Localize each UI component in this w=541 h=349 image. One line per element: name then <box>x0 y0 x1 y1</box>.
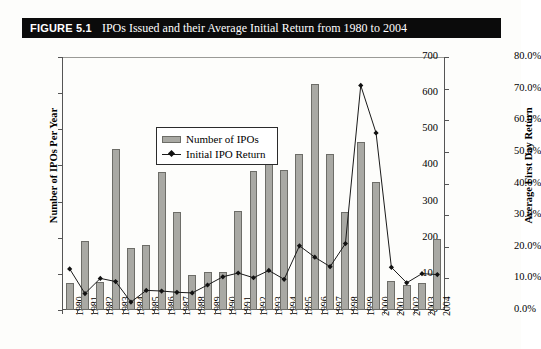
return-line-path <box>70 85 438 302</box>
x-tick-mark <box>200 310 201 314</box>
return-marker-1989: 1989: 7.9% <box>205 282 210 287</box>
right-tick-mark <box>445 184 449 185</box>
line-series-group: 1980: 13%1981: 5.2%1982: 10%1983: 9%1984… <box>62 57 445 310</box>
right-tick-label: 70.0% <box>514 83 541 93</box>
x-tick-mark <box>215 310 216 314</box>
x-tick-mark <box>384 310 385 314</box>
x-tick-mark <box>276 310 277 314</box>
x-tick-mark <box>399 310 400 314</box>
right-tick-label: 0.0% <box>514 304 536 314</box>
x-tick-mark <box>307 310 308 314</box>
x-tick-mark <box>169 310 170 314</box>
return-marker-1992: 1992: 10.2% <box>251 275 256 280</box>
x-tick-mark <box>430 310 431 314</box>
chart-legend: Number of IPOs Initial IPO Return <box>156 127 278 165</box>
return-marker-1990: 1990: 10.5% <box>220 274 225 279</box>
x-tick-mark <box>139 310 140 314</box>
figure-title-text: IPOs Issued and their Average Initial Re… <box>102 21 407 36</box>
return-marker-2003: 2003: 11.5% <box>419 271 424 276</box>
x-tick-mark <box>77 310 78 314</box>
x-tick-mark <box>322 310 323 314</box>
right-tick-mark <box>445 152 449 153</box>
right-tick-mark <box>445 278 449 279</box>
right-tick-label: 60.0% <box>514 114 541 124</box>
return-marker-2000: 2000: 56% <box>373 130 378 135</box>
x-tick-mark <box>154 310 155 314</box>
x-tick-mark <box>368 310 369 314</box>
x-tick-mark <box>353 310 354 314</box>
right-axis-title: Average First Day Return <box>523 107 534 223</box>
return-marker-1987: 1987: 5.6% <box>174 290 179 295</box>
right-tick-label: 50.0% <box>514 146 541 156</box>
return-marker-1998: 1998: 21% <box>343 241 348 246</box>
x-tick-mark <box>185 310 186 314</box>
return-marker-1994: 1994: 9.7% <box>282 277 287 282</box>
return-marker-1993: 1993: 12.5% <box>266 268 271 273</box>
x-tick-mark <box>123 310 124 314</box>
return-marker-1980: 1980: 13% <box>67 266 72 271</box>
x-tick-mark <box>246 310 247 314</box>
right-tick-mark <box>445 57 449 58</box>
legend-item-bars: Number of IPOs <box>162 132 272 146</box>
right-tick-mark <box>445 120 449 121</box>
x-tick-mark <box>414 310 415 314</box>
right-tick-mark <box>445 89 449 90</box>
return-marker-1986: 1986: 6% <box>159 288 164 293</box>
figure-number-label: FIGURE 5.1 <box>30 22 92 34</box>
return-marker-1988: 1988: 5.4% <box>190 290 195 295</box>
plot-area: 0100200300400500600700 0.0%10.0%20.0%30.… <box>62 57 445 310</box>
right-tick-label: 10.0% <box>514 272 541 282</box>
x-tick-mark <box>231 310 232 314</box>
right-tick-label: 30.0% <box>514 209 541 219</box>
return-marker-2004: 2004: 11.2% <box>435 272 440 277</box>
figure-title-bar: FIGURE 5.1 IPOs Issued and their Average… <box>22 18 501 38</box>
line-marker-swatch-icon <box>162 150 181 159</box>
x-tick-mark <box>62 310 63 314</box>
return-marker-1999: 1999: 71% <box>358 83 363 88</box>
x-tick-mark <box>292 310 293 314</box>
right-tick-mark <box>445 215 449 216</box>
right-tick-label: 40.0% <box>514 178 541 188</box>
x-tick-mark <box>261 310 262 314</box>
return-marker-1991: 1991: 11.7% <box>236 270 241 275</box>
right-tick-mark <box>445 247 449 248</box>
bar-swatch-icon <box>162 136 181 143</box>
return-marker-1997: 1997: 13.7% <box>328 264 333 269</box>
x-tick-mark <box>338 310 339 314</box>
right-tick-label: 20.0% <box>514 241 541 251</box>
legend-label-line: Initial IPO Return <box>186 148 265 160</box>
right-tick-label: 80.0% <box>514 51 541 61</box>
x-tick-mark <box>93 310 94 314</box>
legend-item-line: Initial IPO Return <box>162 147 272 161</box>
x-tick-mark <box>108 310 109 314</box>
legend-label-bars: Number of IPOs <box>186 133 259 145</box>
